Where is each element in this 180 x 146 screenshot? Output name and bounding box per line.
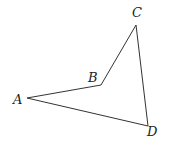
edge-cd [136,25,148,126]
quadrilateral-diagram: A B C D [0,0,180,146]
vertex-label-c: C [132,5,142,20]
edge-bc [101,25,136,85]
edge-ab [27,85,101,98]
edge-da [27,98,148,126]
vertex-label-a: A [12,92,22,107]
vertex-label-d: D [146,124,158,139]
vertex-label-b: B [87,70,98,85]
